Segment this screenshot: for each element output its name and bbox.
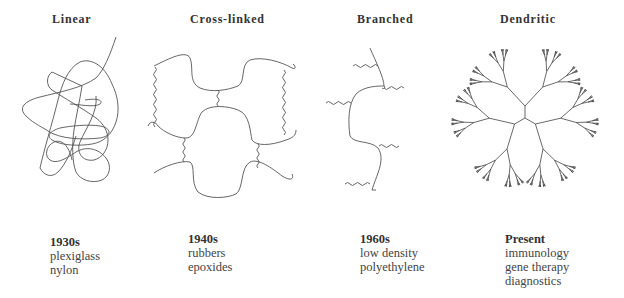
example-label: diagnostics — [505, 274, 569, 288]
era-label: 1930s — [50, 235, 100, 249]
panel-caption-branched: 1960s low density polyethylene — [360, 232, 425, 274]
example-label: polyethylene — [360, 260, 425, 274]
panel-caption-linear: 1930s plexiglass nylon — [50, 235, 100, 277]
example-label: low density — [360, 246, 425, 260]
example-label: plexiglass — [50, 249, 100, 263]
example-label: epoxides — [188, 260, 232, 274]
example-label: rubbers — [188, 246, 232, 260]
panel-caption-dendritic: Present immunology gene therapy diagnost… — [505, 232, 569, 288]
example-label: nylon — [50, 263, 100, 277]
branched-polymer-icon — [326, 48, 404, 190]
example-label: immunology — [505, 246, 569, 260]
dendritic-polymer-icon — [451, 49, 598, 187]
example-label: gene therapy — [505, 260, 569, 274]
linear-polymer-coil-icon — [22, 37, 118, 182]
panel-caption-cross-linked: 1940s rubbers epoxides — [188, 232, 232, 274]
cross-linked-polymer-network-icon — [148, 55, 296, 198]
era-label: Present — [505, 232, 569, 246]
era-label: 1940s — [188, 232, 232, 246]
era-label: 1960s — [360, 232, 425, 246]
